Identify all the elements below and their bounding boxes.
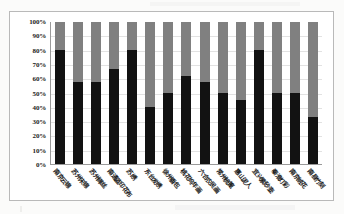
bar-segment-series-2: [73, 22, 83, 82]
y-axis: 100%90%80%70%60%50%40%30%20%10%0%: [10, 22, 48, 165]
bar-segment-series-1: [236, 100, 246, 164]
y-axis-tick-label: 10%: [33, 147, 46, 155]
y-axis-tick-label: 40%: [33, 104, 46, 112]
bar-column: [55, 22, 65, 164]
bar-column: [109, 22, 119, 164]
y-axis-tick-label: 30%: [33, 118, 46, 126]
x-axis-category-label: 南京绒花: [287, 168, 307, 190]
x-axis-category-label: 徐州香包: [160, 168, 180, 190]
bar-segment-series-1: [127, 50, 137, 164]
bar-column: [181, 22, 191, 164]
y-axis-tick-label: 20%: [33, 132, 46, 140]
bar-series-group: [51, 22, 322, 164]
x-axis-category-label: 南县竹刻: [305, 168, 325, 190]
x-axis-label-slot: 南县竹刻: [308, 167, 318, 213]
bar-column: [218, 22, 228, 164]
bar-column: [163, 22, 173, 164]
scan-artifact: [175, 205, 295, 210]
bar-segment-series-2: [308, 22, 318, 117]
bar-segment-series-2: [163, 22, 173, 93]
y-axis-tick-label: 70%: [33, 61, 46, 69]
y-axis-tick-label: 100%: [29, 18, 46, 26]
bar-column: [290, 22, 300, 164]
x-axis-label-slot: 苏州缂丝: [90, 167, 100, 213]
x-axis-category-label: 南京云锦: [52, 168, 72, 190]
x-axis-category-label: 常州梳篦: [215, 168, 235, 190]
bar-segment-series-2: [290, 22, 300, 93]
bar-segment-series-2: [127, 22, 137, 50]
scan-artifact: [150, 2, 300, 6]
bar-column: [91, 22, 101, 164]
bar-segment-series-1: [290, 93, 300, 164]
y-axis-tick-label: 80%: [33, 47, 46, 55]
bar-segment-series-1: [272, 93, 282, 164]
bar-segment-series-1: [200, 82, 210, 164]
x-axis-label-slot: 东台发绣: [145, 167, 155, 213]
x-axis-label-slot: 苏绣: [127, 167, 137, 213]
bar-segment-series-2: [91, 22, 101, 82]
bar-segment-series-1: [163, 93, 173, 164]
bar-column: [145, 22, 155, 164]
y-axis-tick-label: 90%: [33, 32, 46, 40]
chart-frame: 100%90%80%70%60%50%40%30%20%10%0% 南京云锦苏州…: [9, 11, 334, 201]
x-axis-label-slot: 徐州香包: [163, 167, 173, 213]
bar-segment-series-1: [254, 50, 264, 164]
bar-segment-series-2: [145, 22, 155, 107]
bar-column: [127, 22, 137, 164]
bar-segment-series-1: [181, 76, 191, 164]
bar-segment-series-1: [308, 117, 318, 164]
x-axis-category-label: 苏州宋锦: [70, 168, 90, 190]
bar-segment-series-1: [218, 93, 228, 164]
bar-column: [254, 22, 264, 164]
bar-segment-series-2: [109, 22, 119, 69]
bar-segment-series-1: [55, 50, 65, 164]
bar-segment-series-1: [73, 82, 83, 164]
y-axis-tick-label: 60%: [33, 75, 46, 83]
bar-column: [236, 22, 246, 164]
bar-segment-series-2: [55, 22, 65, 50]
bar-column: [272, 22, 282, 164]
x-axis-label-slot: 南通蓝印花布: [108, 167, 118, 213]
x-axis-category-label: 苏绣: [124, 168, 137, 181]
bar-segment-series-2: [181, 22, 191, 76]
bar-segment-series-2: [254, 22, 264, 50]
page-background: 100%90%80%70%60%50%40%30%20%10%0% 南京云锦苏州…: [0, 0, 344, 214]
x-axis-label-slot: 南京云锦: [54, 167, 64, 213]
scan-artifact: [20, 206, 22, 212]
x-axis-label-slot: 苏州宋锦: [72, 167, 82, 213]
bar-segment-series-1: [91, 82, 101, 164]
plot-area: [50, 22, 322, 165]
x-axis-category-label: 东台发绣: [142, 168, 162, 190]
bar-column: [308, 22, 318, 164]
bar-column: [73, 22, 83, 164]
y-axis-tick-label: 0%: [36, 161, 46, 169]
bar-segment-series-2: [218, 22, 228, 93]
bar-column: [200, 22, 210, 164]
bar-segment-series-2: [272, 22, 282, 93]
bar-segment-series-1: [109, 69, 119, 164]
bar-segment-series-2: [200, 22, 210, 82]
bar-segment-series-2: [236, 22, 246, 100]
bar-segment-series-1: [145, 107, 155, 164]
y-axis-tick-label: 50%: [33, 90, 46, 98]
x-axis-category-label: 秦淮灯彩: [269, 168, 289, 190]
